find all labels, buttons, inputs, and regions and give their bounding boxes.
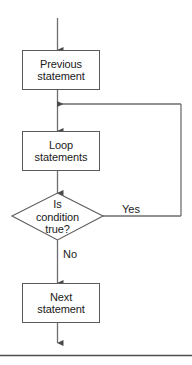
node-loop-statements-label: Loop statements	[35, 139, 88, 164]
flowchart-canvas: Previous statement Loop statements Is co…	[0, 0, 192, 365]
node-next-statement[interactable]: Next statement	[22, 283, 100, 323]
node-previous-statement-label: Previous statement	[37, 58, 84, 83]
node-previous-statement[interactable]: Previous statement	[22, 50, 100, 90]
node-loop-statements[interactable]: Loop statements	[22, 131, 100, 171]
decision-diamond	[12, 193, 103, 240]
node-next-statement-label: Next statement	[37, 291, 84, 316]
